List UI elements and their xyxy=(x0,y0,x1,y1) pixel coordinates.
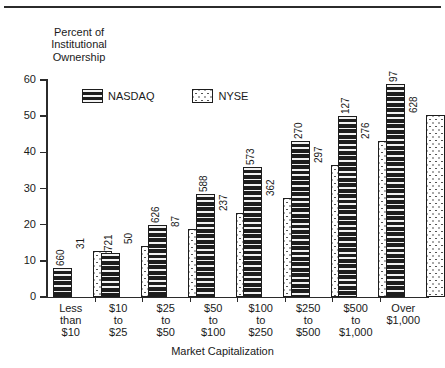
bar-value-label: 297 xyxy=(313,146,324,163)
bar-value-label: 50 xyxy=(123,233,134,244)
bar-slot: 270 xyxy=(291,80,310,297)
bar-value-label: 87 xyxy=(170,216,181,227)
y-axis-tick xyxy=(40,79,47,81)
x-axis-category-label: Less than $10 xyxy=(44,302,98,339)
bar-group: 72150 xyxy=(101,80,140,297)
bar-group: 573362 xyxy=(243,80,282,297)
bar-group: 97628 xyxy=(386,80,425,297)
bar-slot: 127 xyxy=(338,80,357,297)
bar-nasdaq[interactable] xyxy=(243,167,262,297)
bar-slot: 573 xyxy=(243,80,262,297)
bar-slot: 626 xyxy=(148,80,167,297)
y-axis-tick-label: 30 xyxy=(14,183,36,194)
bar-value-label: 626 xyxy=(150,206,161,223)
legend-entry-nyse: NYSE xyxy=(192,89,248,103)
y-axis-tick-label: 60 xyxy=(14,74,36,85)
bar-slot: 588 xyxy=(196,80,215,297)
bar-value-label: 660 xyxy=(55,249,66,266)
bar-nasdaq[interactable] xyxy=(53,268,72,297)
x-axis-category-label: $10 to $25 xyxy=(92,302,146,339)
bar-slot: 50 xyxy=(121,80,140,297)
bar-nasdaq[interactable] xyxy=(386,84,405,297)
bar-group: 62687 xyxy=(148,80,187,297)
bar-slot: 628 xyxy=(406,80,425,297)
y-axis-tick-label-wrap: 0 xyxy=(10,291,36,302)
bar-group: 66031 xyxy=(53,80,92,297)
bar-value-label: 628 xyxy=(408,96,419,113)
bar-slot: 276 xyxy=(358,80,377,297)
bar-slot: 660 xyxy=(53,80,72,297)
y-axis-tick xyxy=(40,152,47,154)
x-axis-tick xyxy=(95,297,96,302)
y-axis-tick-label: 20 xyxy=(14,219,36,230)
bar-slot: 237 xyxy=(216,80,235,297)
bar-value-label: 270 xyxy=(293,123,304,140)
bar-value-label: 573 xyxy=(245,148,256,165)
legend-swatch-nasdaq-icon xyxy=(82,89,103,103)
bar-slot: 97 xyxy=(386,80,405,297)
y-axis-tick-label-wrap: 60 xyxy=(10,74,36,85)
bar-value-label: 276 xyxy=(360,123,371,140)
y-axis-tick-label: 0 xyxy=(14,291,36,302)
x-axis-tick xyxy=(285,297,286,302)
plot-area: 6603172150626875882375733622702971272769… xyxy=(47,80,427,297)
bar-slot: 31 xyxy=(73,80,92,297)
bar-value-label: 721 xyxy=(103,234,114,251)
bar-slot: 362 xyxy=(263,80,282,297)
bar-group: 127276 xyxy=(338,80,377,297)
x-axis-category-label: Over $1,000 xyxy=(377,302,431,326)
legend-swatch-nyse-icon xyxy=(192,89,213,103)
chart-figure: Percent of Institutional Ownership 01020… xyxy=(0,0,445,368)
x-axis-tick xyxy=(190,297,191,302)
x-axis-category-label: $250 to $500 xyxy=(282,302,336,339)
x-axis-tick xyxy=(237,297,238,302)
bar-slot: 297 xyxy=(311,80,330,297)
bar-value-label: 31 xyxy=(75,238,86,249)
x-axis-tick xyxy=(142,297,143,302)
bar-value-label: 362 xyxy=(265,179,276,196)
bar-nyse[interactable] xyxy=(426,115,445,297)
x-axis-category-label: $100 to $250 xyxy=(234,302,288,339)
y-axis-tick-label-wrap: 30 xyxy=(10,183,36,194)
x-axis-category-label: $25 to $50 xyxy=(139,302,193,339)
bar-value-label: 237 xyxy=(218,194,229,211)
bar-nasdaq[interactable] xyxy=(338,116,357,297)
bar-group: 270297 xyxy=(291,80,330,297)
y-axis-tick xyxy=(40,115,47,117)
bar-group: 588237 xyxy=(196,80,235,297)
bar-value-label: 97 xyxy=(388,71,399,82)
y-axis-tick-label-wrap: 20 xyxy=(10,219,36,230)
y-axis-tick xyxy=(40,224,47,226)
bar-nasdaq[interactable] xyxy=(196,194,215,297)
bar-nasdaq[interactable] xyxy=(291,141,310,297)
y-axis-tick-label-wrap: 10 xyxy=(10,255,36,266)
legend-entry-nasdaq: NASDAQ xyxy=(82,89,154,103)
y-axis-tick xyxy=(40,260,47,262)
bar-nasdaq[interactable] xyxy=(148,225,167,297)
x-axis-tick xyxy=(332,297,333,302)
y-axis-tick xyxy=(40,188,47,190)
top-divider-rule xyxy=(4,6,441,8)
x-axis-category-label: $50 to $100 xyxy=(187,302,241,339)
y-axis-tick-label-wrap: 50 xyxy=(10,110,36,121)
x-axis-title: Market Capitalization xyxy=(0,345,445,357)
y-axis-tick-label: 40 xyxy=(14,146,36,157)
chart-legend: NASDAQ NYSE xyxy=(82,89,248,103)
bar-slot: 721 xyxy=(101,80,120,297)
legend-label-nasdaq: NASDAQ xyxy=(108,91,154,102)
bar-value-label: 127 xyxy=(340,97,351,114)
legend-label-nyse: NYSE xyxy=(218,91,248,102)
bar-slot: 87 xyxy=(168,80,187,297)
y-axis-title: Percent of Institutional Ownership xyxy=(24,26,134,63)
x-axis-category-label: $500 to $1,000 xyxy=(329,302,383,339)
y-axis-tick xyxy=(40,296,47,298)
y-axis-tick-label: 50 xyxy=(14,110,36,121)
bar-nasdaq[interactable] xyxy=(101,253,120,297)
x-axis-tick xyxy=(380,297,381,302)
y-axis-tick-label-wrap: 40 xyxy=(10,146,36,157)
y-axis-tick-label: 10 xyxy=(14,255,36,266)
bar-value-label: 588 xyxy=(198,175,209,192)
